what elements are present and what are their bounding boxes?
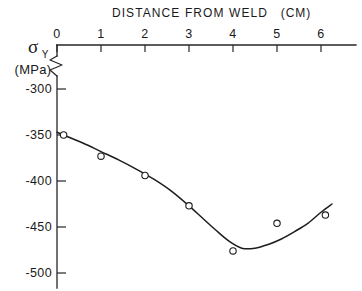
chart-title: DISTANCE FROM WELD <box>112 6 268 20</box>
x-tick-label: 5 <box>273 27 280 41</box>
x-tick-marks <box>57 45 321 52</box>
data-point <box>322 212 328 218</box>
data-point <box>142 172 148 178</box>
data-point <box>274 220 280 226</box>
x-tick-label: 6 <box>317 27 324 41</box>
chart-container: DISTANCE FROM WELD (CM) σ Y (MPa) 0 1 2 … <box>0 0 362 291</box>
y-tick-labels: -300 -350 -400 -450 -500 <box>25 82 52 280</box>
x-tick-label: 1 <box>97 27 104 41</box>
y-tick-marks <box>57 89 66 273</box>
x-tick-label: 0 <box>53 27 60 41</box>
x-tick-label: 3 <box>185 27 192 41</box>
y-tick-label: -450 <box>25 220 52 234</box>
y-tick-label: -300 <box>25 82 52 96</box>
y-axis-label-symbol: σ <box>28 36 38 57</box>
y-axis-label-units: (MPa) <box>15 62 52 77</box>
chart-title-units: (CM) <box>281 6 311 20</box>
y-tick-label: -500 <box>25 266 52 280</box>
y-tick-label: -400 <box>25 174 52 188</box>
data-point <box>230 248 236 254</box>
y-tick-label: -350 <box>25 128 52 142</box>
data-point <box>60 132 66 138</box>
data-point <box>98 153 104 159</box>
y-axis-break-icon <box>50 56 62 76</box>
y-axis-label-subscript: Y <box>42 49 49 60</box>
x-tick-label: 2 <box>141 27 148 41</box>
data-point <box>186 203 192 209</box>
fitted-curve <box>57 132 332 249</box>
stress-vs-distance-chart: DISTANCE FROM WELD (CM) σ Y (MPa) 0 1 2 … <box>0 0 362 291</box>
x-tick-label: 4 <box>229 27 236 41</box>
x-tick-labels: 0 1 2 3 4 5 6 <box>53 27 324 41</box>
